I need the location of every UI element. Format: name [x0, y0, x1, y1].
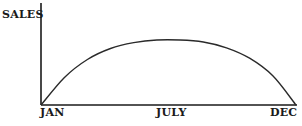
sales-curve — [41, 40, 296, 105]
y-axis-label: SALES — [2, 8, 44, 21]
x-tick-label-jan: JAN — [40, 106, 64, 119]
x-tick-label-july: JULY — [156, 106, 186, 119]
sales-chart: SALES JAN JULY DEC — [0, 0, 302, 126]
x-tick-label-dec: DEC — [270, 106, 297, 119]
